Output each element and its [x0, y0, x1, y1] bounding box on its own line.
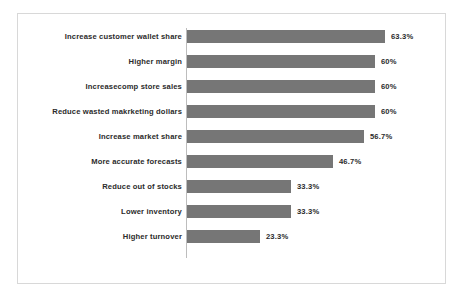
bar-row: Increase market share56.7% — [0, 130, 463, 155]
bar-row: More accurate forecasts46.7% — [0, 155, 463, 180]
bar-wrapper — [187, 80, 375, 93]
bar-value-label: 60% — [381, 55, 397, 68]
bar-value-label: 46.7% — [339, 155, 361, 168]
bar-row: Higher turnover23.3% — [0, 230, 463, 255]
bar-row: Lower inventory33.3% — [0, 205, 463, 230]
bar — [187, 105, 375, 118]
plot-area: Increase customer wallet share63.3%Highe… — [0, 0, 463, 304]
bar — [187, 205, 291, 218]
bar-value-label: 56.7% — [370, 130, 392, 143]
bar-wrapper — [187, 55, 375, 68]
bar-category-label: Higher turnover — [123, 230, 182, 243]
bar-row: Increasecomp store sales60% — [0, 80, 463, 105]
bar-rows: Increase customer wallet share63.3%Highe… — [0, 30, 463, 255]
bar — [187, 230, 260, 243]
bar-value-label: 23.3% — [266, 230, 288, 243]
bar-category-label: More accurate forecasts — [91, 155, 182, 168]
bar — [187, 30, 385, 43]
bar-value-label: 33.3% — [297, 205, 319, 218]
bar-category-label: Increase market share — [99, 130, 182, 143]
bar-category-label: Reduce wasted makrketing dollars — [52, 105, 182, 118]
bar-wrapper — [187, 230, 260, 243]
bar-row: Reduce wasted makrketing dollars60% — [0, 105, 463, 130]
bar — [187, 130, 364, 143]
bar-category-label: Higher margin — [129, 55, 182, 68]
bar-row: Higher margin60% — [0, 55, 463, 80]
bar-row: Increase customer wallet share63.3% — [0, 30, 463, 55]
bar-wrapper — [187, 30, 385, 43]
bar-wrapper — [187, 180, 291, 193]
bar-wrapper — [187, 105, 375, 118]
bar-value-label: 60% — [381, 105, 397, 118]
bar-wrapper — [187, 155, 333, 168]
bar-category-label: Reduce out of stocks — [102, 180, 182, 193]
bar — [187, 80, 375, 93]
bar-value-label: 33.3% — [297, 180, 319, 193]
bar-value-label: 60% — [381, 80, 397, 93]
bar-value-label: 63.3% — [391, 30, 413, 43]
bar — [187, 180, 291, 193]
bar-row: Reduce out of stocks33.3% — [0, 180, 463, 205]
bar — [187, 55, 375, 68]
bar-category-label: Increase customer wallet share — [65, 30, 182, 43]
bar-wrapper — [187, 205, 291, 218]
bar — [187, 155, 333, 168]
bar-category-label: Increasecomp store sales — [86, 80, 182, 93]
chart-container: Increase customer wallet share63.3%Highe… — [0, 0, 463, 304]
bar-category-label: Lower inventory — [121, 205, 182, 218]
bar-wrapper — [187, 130, 364, 143]
